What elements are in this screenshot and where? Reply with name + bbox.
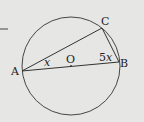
label-A: A [10, 65, 20, 78]
label-C: C [101, 15, 109, 28]
angle-A-label: x [44, 56, 51, 69]
label-B: B [120, 57, 128, 70]
circle-diagram: A B C O x 5x [0, 0, 144, 122]
label-O: O [66, 53, 75, 66]
angle-B-label: 5x [99, 51, 113, 64]
